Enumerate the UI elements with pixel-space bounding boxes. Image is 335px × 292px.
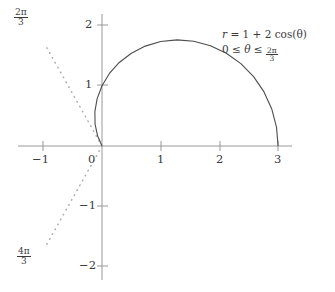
y-tick-label--1: −1 (79, 200, 96, 212)
x-tick-label-0: 0 (88, 154, 95, 166)
angle-label-2pi-over-3-denominator: 3 (14, 17, 28, 27)
equation-r-symbol: r (222, 28, 227, 40)
equation-line: r = 1 + 2 cos(θ) (222, 27, 307, 42)
x-tick-label--1: −1 (32, 154, 49, 166)
x-tick-label-3: 3 (274, 154, 281, 166)
domain-fraction-denominator: 3 (266, 54, 278, 63)
angle-label-4pi-over-3-numerator: 4π (17, 247, 31, 256)
angle-label-2pi-over-3-numerator: 2π (14, 8, 28, 17)
angle-label-4pi-over-3-denominator: 3 (17, 256, 31, 266)
domain-fraction-numerator: 2π (266, 47, 278, 55)
domain-line: 0 ≤ θ ≤ 2π 3 (222, 42, 307, 63)
equation-equals: = (230, 28, 239, 40)
x-tick-label-1: 1 (157, 154, 164, 166)
domain-lower-bound: 0 (222, 43, 229, 55)
y-tick-label-1: 1 (85, 79, 92, 91)
equation-rhs: 1 + 2 cos(θ) (243, 28, 307, 40)
domain-upper-bound-fraction: 2π 3 (266, 46, 278, 63)
equation-annotation: r = 1 + 2 cos(θ) 0 ≤ θ ≤ 2π 3 (222, 27, 307, 63)
y-tick-label-2: 2 (85, 19, 92, 31)
domain-le-first: ≤ (232, 43, 241, 55)
y-tick-label--2: −2 (79, 260, 96, 272)
x-tick-label-2: 2 (216, 154, 223, 166)
angle-label-2pi-over-3: 2π 3 (14, 8, 28, 27)
ray-2pi-over-3 (45, 45, 102, 146)
domain-le-second: ≤ (254, 43, 263, 55)
domain-theta-symbol: θ (244, 43, 250, 55)
polar-plot-figure: −1 0 1 2 3 2 1 −1 −2 2π 3 4π 3 r = 1 + 2… (0, 0, 335, 292)
angle-label-4pi-over-3: 4π 3 (17, 247, 31, 266)
